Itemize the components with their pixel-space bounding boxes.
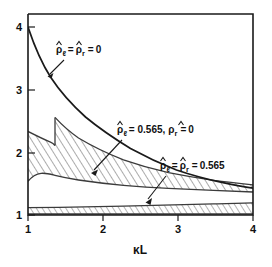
annotation-3-sub-r: r [186,165,189,174]
x-axis-label: κL [133,243,147,257]
x-ticklabel-4: 4 [250,223,257,235]
x-ticklabel-2: 2 [100,223,106,235]
annotation-2-sub-l: ℓ [123,129,127,138]
x-ticklabel-3: 3 [175,223,181,235]
annotation-1-sub-l: ℓ [62,49,66,58]
annotation-2-value: 0 [188,124,194,135]
annotation-3-eq2: = [192,160,198,171]
y-ticklabel-2: 2 [16,147,22,159]
annotation-3-value: 0.565 [200,160,225,171]
y-ticklabel-3: 3 [16,84,22,96]
annotation-1-eq1: = [68,44,74,55]
y-ticklabel-4: 4 [16,21,23,33]
annotation-3-eq1: = [172,160,178,171]
x-ticklabel-1: 1 [25,223,31,235]
figure-container: 4 3 2 1 1 2 3 4 κL ρℓ=ρr=0 ρℓ= 0.565 [0,0,272,267]
annotation-1-eq2: = [88,44,94,55]
annotation-3-sub-l: ℓ [166,165,170,174]
annotation-2-sub-r: r [174,129,177,138]
annotation-2-eq1: = 0.565, [129,124,166,135]
annotation-1-sub-r: r [82,49,85,58]
annotation-1-value: 0 [96,44,102,55]
plot-svg: 4 3 2 1 1 2 3 4 κL ρℓ=ρr=0 ρℓ= 0.565 [0,0,272,267]
annotation-2-eq2: = [180,124,186,135]
y-ticklabel-1: 1 [16,209,22,221]
